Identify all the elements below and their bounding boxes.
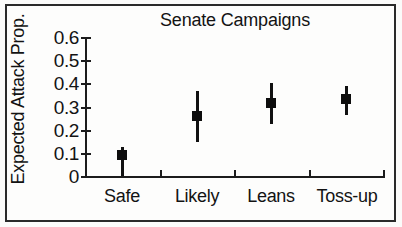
y-tick-0.4 bbox=[81, 83, 91, 85]
y-tick-label-0: 0 bbox=[37, 167, 79, 186]
x-label-safe: Safe bbox=[82, 186, 162, 207]
y-tick-label-0.4: 0.4 bbox=[37, 74, 79, 93]
x-tick-1 bbox=[160, 170, 162, 178]
data-point-safe bbox=[117, 150, 127, 160]
y-tick-label-0.1: 0.1 bbox=[37, 144, 79, 163]
x-tick-0 bbox=[85, 170, 87, 178]
y-tick-0.3 bbox=[81, 107, 91, 109]
y-tick-0.2 bbox=[81, 130, 91, 132]
y-tick-label-0.5: 0.5 bbox=[37, 51, 79, 70]
y-tick-label-wrap-0.3: 0.3 bbox=[33, 98, 79, 117]
y-tick-label-0.6: 0.6 bbox=[37, 28, 79, 47]
plot-area: Senate Campaigns Expected Attack Prop. 0… bbox=[0, 0, 402, 227]
y-tick-label-wrap-0: 0 bbox=[33, 167, 79, 186]
x-label-likely: Likely bbox=[157, 186, 237, 207]
x-label-tossup: Toss-up bbox=[305, 186, 389, 207]
y-tick-0.1 bbox=[81, 153, 91, 155]
y-tick-label-wrap-0.6: 0.6 bbox=[33, 28, 79, 47]
y-tick-label-wrap-0.5: 0.5 bbox=[33, 51, 79, 70]
y-tick-label-wrap-0.2: 0.2 bbox=[33, 121, 79, 140]
y-tick-label-wrap-0.1: 0.1 bbox=[33, 144, 79, 163]
y-tick-label-0.3: 0.3 bbox=[37, 98, 79, 117]
y-axis-label: Expected Attack Prop. bbox=[8, 4, 29, 194]
y-tick-label-0.2: 0.2 bbox=[37, 121, 79, 140]
x-label-leans: Leans bbox=[231, 186, 311, 207]
data-point-likely bbox=[192, 111, 202, 121]
data-point-leans bbox=[266, 98, 276, 108]
x-tick-2 bbox=[234, 170, 236, 178]
y-axis-label-container: Expected Attack Prop. bbox=[8, 4, 34, 194]
x-tick-3 bbox=[309, 170, 311, 178]
y-tick-0.5 bbox=[81, 60, 91, 62]
data-point-tossup bbox=[341, 94, 351, 104]
chart-title: Senate Campaigns bbox=[85, 10, 385, 31]
y-tick-0.6 bbox=[81, 37, 91, 39]
x-tick-4 bbox=[383, 170, 385, 178]
y-tick-label-wrap-0.4: 0.4 bbox=[33, 74, 79, 93]
chart-figure: Senate Campaigns Expected Attack Prop. 0… bbox=[0, 0, 402, 227]
